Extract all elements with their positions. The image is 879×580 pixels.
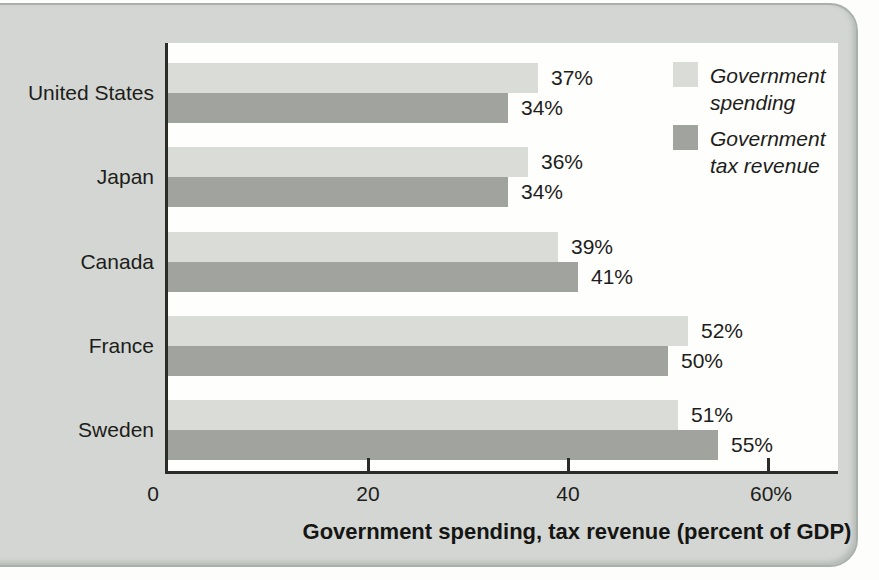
x-axis-tick bbox=[767, 458, 770, 471]
x-axis-tick bbox=[567, 458, 570, 471]
bar-value-label: 50% bbox=[681, 349, 723, 373]
bar-government-spending bbox=[168, 316, 688, 346]
bar-government-spending bbox=[168, 400, 678, 430]
x-axis-tick-label: 20 bbox=[356, 482, 379, 506]
category-label: Canada bbox=[0, 250, 154, 274]
bar-value-label: 41% bbox=[591, 265, 633, 289]
bar-government-tax-revenue bbox=[168, 93, 508, 123]
category-label: France bbox=[0, 334, 154, 358]
legend-item-government-spending: Governmentspending bbox=[673, 62, 826, 116]
bar-government-tax-revenue bbox=[168, 262, 578, 292]
bar-value-label: 52% bbox=[701, 319, 743, 343]
bar-government-spending bbox=[168, 63, 538, 93]
category-label: Japan bbox=[0, 165, 154, 189]
category-label: United States bbox=[0, 81, 154, 105]
x-axis-tick bbox=[367, 458, 370, 471]
x-axis-tick-label: 40 bbox=[556, 482, 579, 506]
bar-government-tax-revenue bbox=[168, 346, 668, 376]
x-axis-tick-label: 60% bbox=[750, 482, 792, 506]
bar-government-tax-revenue bbox=[168, 430, 718, 460]
x-axis-title: Government spending, tax revenue (percen… bbox=[303, 519, 852, 545]
legend-label: Governmenttax revenue bbox=[710, 125, 826, 179]
bar-value-label: 36% bbox=[541, 150, 583, 174]
legend-label: Governmentspending bbox=[710, 62, 826, 116]
bar-value-label: 34% bbox=[521, 96, 563, 120]
bar-government-spending bbox=[168, 232, 558, 262]
bar-value-label: 55% bbox=[731, 433, 773, 457]
plot-area: GovernmentspendingGovernmenttax revenue … bbox=[165, 43, 838, 474]
bar-government-tax-revenue bbox=[168, 177, 508, 207]
chart-figure: GovernmentspendingGovernmenttax revenue … bbox=[0, 0, 879, 580]
spending-swatch-icon bbox=[673, 62, 698, 87]
bar-value-label: 51% bbox=[691, 403, 733, 427]
legend-item-government-tax-revenue: Governmenttax revenue bbox=[673, 125, 826, 179]
bar-value-label: 37% bbox=[551, 66, 593, 90]
bar-government-spending bbox=[168, 147, 528, 177]
category-label: Sweden bbox=[0, 418, 154, 442]
bar-value-label: 34% bbox=[521, 180, 563, 204]
legend: GovernmentspendingGovernmenttax revenue bbox=[673, 62, 826, 179]
tax-revenue-swatch-icon bbox=[673, 125, 698, 150]
bar-value-label: 39% bbox=[571, 235, 613, 259]
x-axis-tick-label: 0 bbox=[147, 482, 159, 506]
